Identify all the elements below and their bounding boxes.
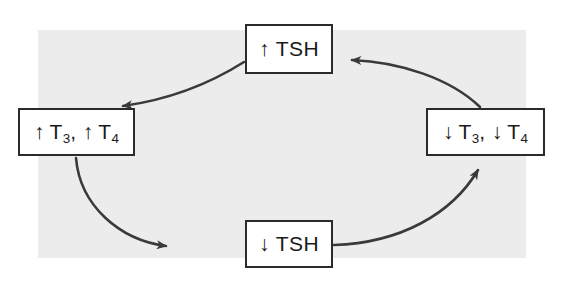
thyroid-feedback-diagram: ↑ TSH ↑ T3, ↑ T4 ↓ T3, ↓ T4 ↓ TSH — [0, 0, 561, 282]
down-arrow-icon: ↓ — [492, 120, 503, 143]
node-tsh-high: ↑ TSH — [245, 24, 333, 74]
connector-left-to-bottom — [76, 158, 166, 246]
node-t3-t4-high-label: ↑ T3, ↑ T4 — [34, 121, 119, 143]
connector-top-to-left — [123, 62, 244, 106]
up-arrow-icon: ↑ — [83, 120, 94, 143]
node-tsh-low-label: ↓ TSH — [259, 233, 319, 255]
down-arrow-icon: ↓ — [443, 120, 454, 143]
connector-right-to-top — [352, 60, 480, 107]
up-arrow-icon: ↑ — [34, 120, 45, 143]
node-t3-t4-low: ↓ T3, ↓ T4 — [426, 108, 545, 156]
node-tsh-high-label: ↑ TSH — [259, 38, 319, 60]
node-t3-t4-low-label: ↓ T3, ↓ T4 — [443, 121, 528, 143]
connector-bottom-to-right — [334, 170, 478, 245]
node-tsh-low: ↓ TSH — [245, 220, 333, 268]
node-t3-t4-high: ↑ T3, ↑ T4 — [18, 108, 135, 156]
